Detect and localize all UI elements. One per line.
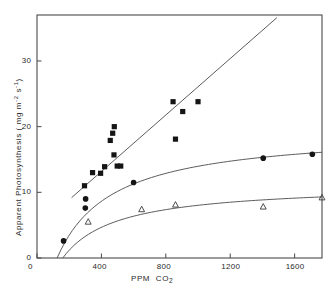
x-tick-label: 800 bbox=[157, 262, 171, 271]
data-point-square bbox=[111, 152, 116, 157]
series-data-points bbox=[61, 99, 325, 244]
data-point-square bbox=[173, 137, 178, 142]
data-point-circle bbox=[131, 180, 137, 186]
x-tick-label: 0 bbox=[28, 262, 33, 271]
data-point-square bbox=[102, 164, 107, 169]
data-point-triangle bbox=[260, 204, 266, 210]
figure-photosynthesis-vs-co2: 040080012001600 0102030 Apparent Photosy… bbox=[0, 0, 332, 290]
fit-curve-open-triangle-series bbox=[63, 197, 322, 258]
data-point-square bbox=[110, 131, 115, 136]
data-point-square bbox=[118, 163, 123, 168]
y-tick-label: 30 bbox=[22, 56, 32, 65]
data-point-square bbox=[112, 124, 117, 129]
x-tick-label: 1200 bbox=[221, 262, 240, 271]
y-axis-title-text: Apparent Photosynthesis ( mg m-2 s-1) bbox=[14, 78, 23, 236]
y-tick-label: 10 bbox=[22, 187, 32, 196]
x-axis-title: PPM CO2 bbox=[131, 274, 173, 283]
data-point-square bbox=[180, 109, 185, 114]
y-tick-label: 0 bbox=[26, 253, 31, 262]
y-tick-label: 20 bbox=[22, 122, 32, 131]
plot-canvas bbox=[0, 0, 332, 290]
series-fit-lines bbox=[57, 18, 322, 258]
fit-curve-filled-square-series bbox=[72, 18, 277, 198]
data-point-square bbox=[170, 99, 175, 104]
data-point-square bbox=[108, 138, 113, 143]
data-point-triangle bbox=[173, 202, 179, 208]
fit-curve-filled-circle-series bbox=[57, 152, 322, 258]
data-point-circle bbox=[83, 205, 89, 211]
data-point-triangle bbox=[139, 206, 145, 212]
data-point-square bbox=[195, 99, 200, 104]
x-tick-label: 1600 bbox=[286, 262, 305, 271]
x-tick-label: 400 bbox=[92, 262, 106, 271]
x-axis-ticks bbox=[37, 254, 295, 259]
data-point-circle bbox=[260, 155, 266, 161]
y-axis-ticks bbox=[37, 61, 42, 258]
data-point-circle bbox=[83, 196, 89, 202]
data-point-circle bbox=[61, 238, 67, 244]
x-axis-title-text: PPM CO2 bbox=[131, 274, 173, 283]
data-point-triangle bbox=[85, 219, 91, 225]
data-point-square bbox=[98, 171, 103, 176]
y-axis-title: Apparent Photosynthesis ( mg m-2 s-1) bbox=[14, 78, 23, 236]
data-point-circle bbox=[310, 151, 316, 157]
data-point-square bbox=[90, 170, 95, 175]
data-point-square bbox=[82, 183, 87, 188]
